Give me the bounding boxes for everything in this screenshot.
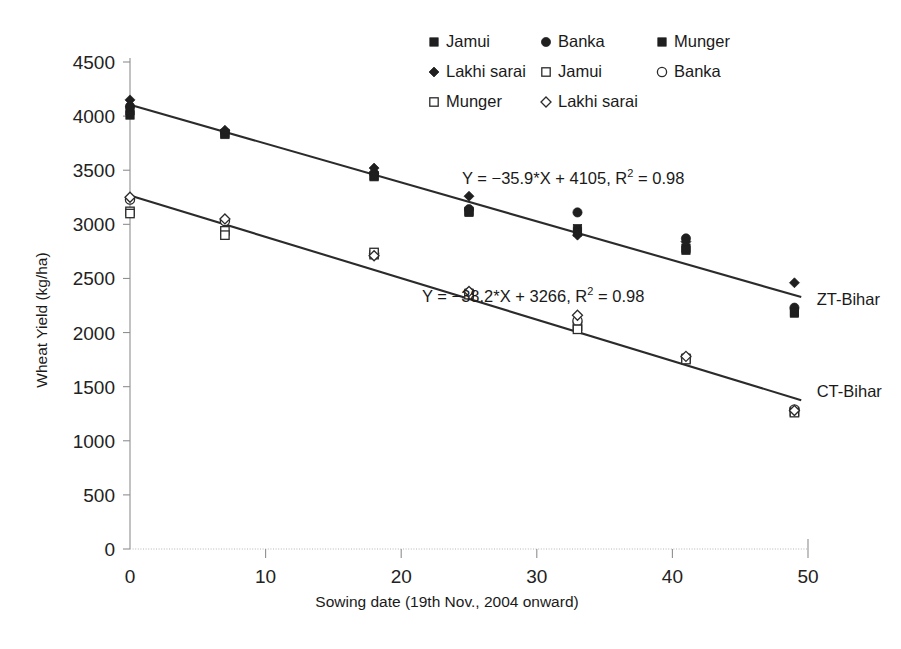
legend-marker-filled-square-icon	[430, 38, 438, 46]
x-tick-label: 0	[125, 566, 136, 587]
wheat-yield-scatter-chart: 0500100015002000250030003500400045000102…	[0, 0, 901, 649]
equation-ct-bihar: Y = −38.2*X + 3266, R2 = 0.98	[422, 285, 644, 305]
data-point	[465, 208, 473, 216]
data-point	[221, 231, 229, 239]
y-tick-label: 1000	[73, 431, 115, 452]
data-point	[126, 209, 134, 217]
legend-label: Jamui	[558, 62, 602, 80]
y-tick-label: 2500	[73, 268, 115, 289]
data-point	[573, 208, 582, 217]
legend-item-zt-bihar-munger[interactable]: Munger	[658, 32, 731, 50]
legend-label: Lakhi sarai	[446, 62, 526, 80]
legend-label: Banka	[674, 62, 722, 80]
axes: 0500100015002000250030003500400045000102…	[73, 52, 819, 587]
data-point	[682, 246, 690, 254]
legend-label: Banka	[558, 32, 606, 50]
x-tick-label: 40	[662, 566, 683, 587]
trendline-zt-bihar	[130, 105, 801, 297]
legend-label: Munger	[446, 92, 502, 110]
legend-item-zt-bihar-lakhi-sarai[interactable]: Lakhi sarai	[429, 62, 526, 80]
y-tick-label: 3000	[73, 214, 115, 235]
y-tick-label: 4000	[73, 106, 115, 127]
x-tick-label: 20	[391, 566, 412, 587]
legend-marker-filled-diamond-icon	[429, 67, 439, 77]
series-label-zt-bihar: ZT-Bihar	[817, 290, 881, 308]
legend-marker-open-square-icon	[542, 68, 550, 76]
legend-item-ct-bihar-jamui[interactable]: Jamui	[542, 62, 602, 80]
data-point	[464, 191, 474, 201]
y-tick-label: 0	[104, 539, 115, 560]
data-point	[789, 278, 799, 288]
series-label-ct-bihar: CT-Bihar	[817, 382, 883, 400]
x-tick-label: 30	[526, 566, 547, 587]
series-labels: ZT-BiharCT-Bihar	[817, 290, 883, 400]
data-point	[126, 111, 134, 119]
series-zt-bihar-lakhi-sarai	[125, 95, 799, 288]
data-point	[573, 325, 581, 333]
legend-marker-filled-circle-icon	[541, 37, 550, 46]
legend-marker-open-square-icon	[430, 98, 438, 106]
equation-zt-bihar: Y = −35.9*X + 4105, R2 = 0.98	[462, 167, 684, 187]
trendlines	[130, 105, 801, 400]
y-axis-title: Wheat Yield (kg/ha)	[33, 252, 50, 387]
legend-item-zt-bihar-jamui[interactable]: Jamui	[430, 32, 490, 50]
legend-item-ct-bihar-lakhi-sarai[interactable]: Lakhi sarai	[541, 92, 638, 110]
legend-label: Jamui	[446, 32, 490, 50]
legend-marker-open-diamond-icon	[541, 97, 551, 107]
y-tick-label: 3500	[73, 160, 115, 181]
legend-label: Munger	[674, 32, 730, 50]
equation-annotations: Y = −35.9*X + 4105, R2 = 0.98Y = −38.2*X…	[422, 167, 684, 305]
legend-item-ct-bihar-munger[interactable]: Munger	[430, 92, 503, 110]
y-tick-label: 4500	[73, 52, 115, 73]
legend-item-ct-bihar-banka[interactable]: Banka	[657, 62, 721, 80]
x-tick-label: 10	[255, 566, 276, 587]
series-ct-bihar-munger	[126, 209, 799, 417]
y-tick-label: 500	[83, 485, 115, 506]
legend-marker-filled-square-icon	[658, 38, 666, 46]
y-tick-label: 1500	[73, 377, 115, 398]
legend-item-zt-bihar-banka[interactable]: Banka	[541, 32, 605, 50]
data-point	[370, 173, 378, 181]
x-axis-title: Sowing date (19th Nov., 2004 onward)	[315, 593, 578, 610]
legend: JamuiBankaMungerLakhi saraiJamuiBankaMun…	[429, 32, 730, 110]
x-tick-label: 50	[797, 566, 818, 587]
legend-marker-open-circle-icon	[657, 67, 666, 76]
data-point	[790, 309, 798, 317]
chart-figure: 0500100015002000250030003500400045000102…	[0, 0, 901, 649]
y-tick-label: 2000	[73, 323, 115, 344]
legend-label: Lakhi sarai	[558, 92, 638, 110]
